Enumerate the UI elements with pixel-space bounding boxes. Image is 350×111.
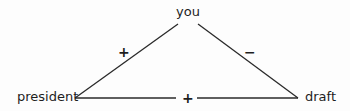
node-president: president <box>17 90 78 104</box>
node-draft: draft <box>305 90 336 104</box>
edge-sign-president-draft: + <box>182 91 194 105</box>
node-you: you <box>176 5 200 19</box>
signed-triangle-diagram: you president draft + − + <box>0 0 350 111</box>
edge-president-you <box>75 24 178 98</box>
edge-sign-president-you: + <box>118 45 130 59</box>
edge-sign-you-draft: − <box>244 45 256 59</box>
edge-you-draft <box>198 24 298 98</box>
